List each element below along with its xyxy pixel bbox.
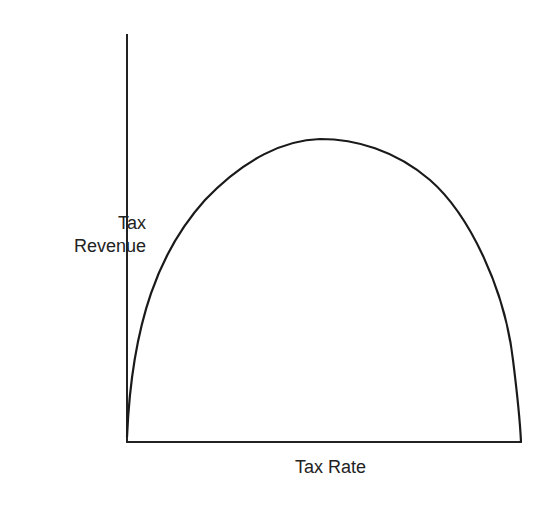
y-axis-label: Tax Revenue — [74, 212, 146, 258]
revenue-curve — [127, 139, 521, 442]
y-axis-label-line-2: Revenue — [74, 235, 146, 258]
y-axis-label-line-1: Tax — [74, 212, 146, 235]
x-axis-label: Tax Rate — [295, 457, 366, 478]
